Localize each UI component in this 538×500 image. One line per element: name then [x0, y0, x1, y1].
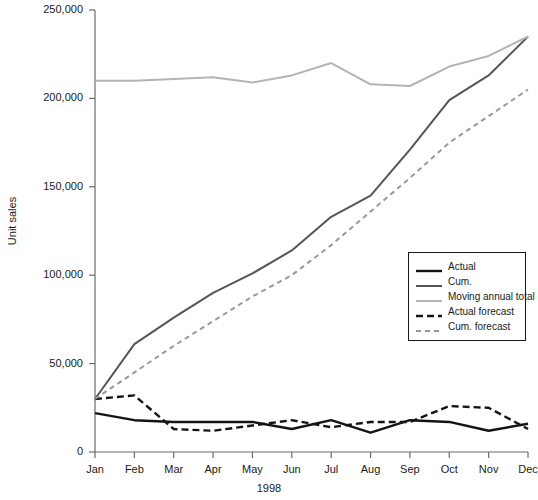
- x-axis-tick-label: Aug: [349, 463, 393, 475]
- y-axis-title: Unit sales: [6, 181, 18, 261]
- legend-swatch-icon: [416, 322, 442, 332]
- legend-swatch-icon: [416, 262, 442, 272]
- line-chart: 050,000100,000150,000200,000250,000 JanF…: [0, 0, 538, 500]
- legend-item-label: Actual: [448, 262, 476, 272]
- x-axis-tick-label: Jan: [73, 463, 117, 475]
- legend-swatch-icon: [416, 307, 442, 317]
- legend-item[interactable]: Actual forecast: [416, 304, 519, 319]
- y-axis-tick-label: 100,000: [0, 268, 83, 280]
- x-axis-tick-label: Oct: [427, 463, 471, 475]
- series-line-moving-annual-total: [95, 37, 528, 86]
- axes: [89, 10, 528, 458]
- legend-item[interactable]: Actual: [416, 259, 519, 274]
- y-axis-tick-label: 250,000: [0, 3, 83, 15]
- y-axis-ticks: [89, 10, 95, 452]
- x-axis-tick-label: Nov: [467, 463, 511, 475]
- series-line-cum-forecast: [95, 90, 528, 399]
- x-axis-tick-label: Sep: [388, 463, 432, 475]
- x-axis-tick-label: Jul: [309, 463, 353, 475]
- legend-swatch-icon: [416, 277, 442, 287]
- x-axis-tick-label: May: [230, 463, 274, 475]
- legend-swatch-icon: [416, 292, 442, 302]
- x-axis-tick-label: Dec: [506, 463, 538, 475]
- legend-item-label: Cum.: [448, 277, 472, 287]
- legend-item[interactable]: Moving annual total: [416, 289, 519, 304]
- x-axis-ticks: [95, 452, 528, 458]
- y-axis-tick-label: 0: [0, 445, 83, 457]
- data-series-group: [95, 37, 528, 433]
- legend-item[interactable]: Cum. forecast: [416, 319, 519, 334]
- legend-item-label: Cum. forecast: [448, 322, 510, 332]
- legend: ActualCum.Moving annual totalActual fore…: [408, 252, 526, 341]
- x-axis-tick-label: Jun: [270, 463, 314, 475]
- plot-area: [0, 0, 538, 500]
- legend-item[interactable]: Cum.: [416, 274, 519, 289]
- x-axis-tick-label: Feb: [112, 463, 156, 475]
- y-axis-tick-label: 200,000: [0, 91, 83, 103]
- x-axis-title: 1998: [0, 482, 538, 494]
- y-axis-tick-label: 50,000: [0, 357, 83, 369]
- series-line-cum: [95, 37, 528, 399]
- x-axis-tick-label: Apr: [191, 463, 235, 475]
- legend-item-label: Actual forecast: [448, 307, 514, 317]
- legend-item-label: Moving annual total: [448, 292, 535, 302]
- x-axis-tick-label: Mar: [152, 463, 196, 475]
